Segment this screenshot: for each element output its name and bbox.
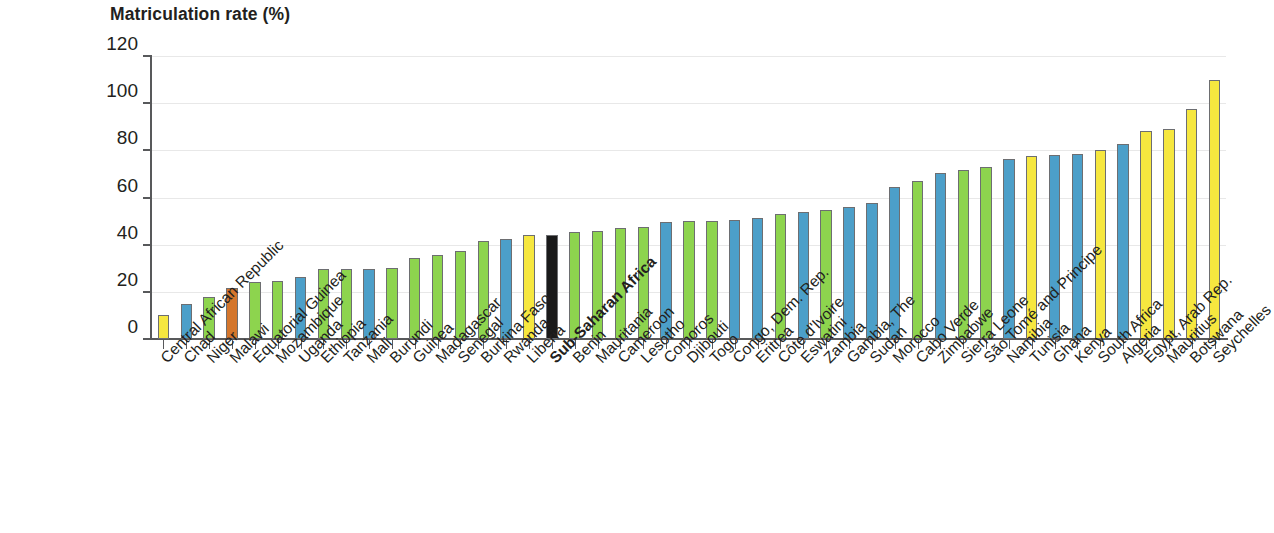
bar-slot[interactable] — [775, 56, 786, 339]
bar-slot[interactable] — [158, 56, 169, 339]
bar-slot[interactable] — [752, 56, 763, 339]
bar-slot[interactable] — [843, 56, 854, 339]
bar[interactable] — [866, 203, 877, 339]
bar-slot[interactable] — [478, 56, 489, 339]
bar-slot[interactable] — [386, 56, 397, 339]
bar-slot[interactable] — [409, 56, 420, 339]
y-tick-label: 0 — [72, 316, 138, 338]
y-tick-mark — [143, 338, 151, 340]
bar-slot[interactable] — [500, 56, 511, 339]
bar[interactable] — [1049, 155, 1060, 339]
bar-slot[interactable] — [706, 56, 717, 339]
y-tick-label: 60 — [72, 175, 138, 197]
bar-slot[interactable] — [1072, 56, 1083, 339]
bar[interactable] — [912, 181, 923, 339]
y-tick-mark — [143, 149, 151, 151]
bar-slot[interactable] — [638, 56, 649, 339]
bar-slot[interactable] — [958, 56, 969, 339]
bar-slot[interactable] — [683, 56, 694, 339]
bar-slot[interactable] — [569, 56, 580, 339]
bar-slot[interactable] — [1163, 56, 1174, 339]
bar-slot[interactable] — [660, 56, 671, 339]
bar-slot[interactable] — [980, 56, 991, 339]
bar-slot[interactable] — [935, 56, 946, 339]
y-axis-tick-labels: 020406080100120 — [72, 0, 138, 533]
y-tick-mark — [143, 102, 151, 104]
bar-slot[interactable] — [1117, 56, 1128, 339]
bar-slot[interactable] — [1095, 56, 1106, 339]
bar[interactable] — [729, 220, 740, 339]
bar-slot[interactable] — [729, 56, 740, 339]
bar-slot[interactable] — [249, 56, 260, 339]
y-tick-label: 100 — [72, 80, 138, 102]
y-tick-mark — [143, 244, 151, 246]
y-tick-label: 20 — [72, 269, 138, 291]
bar[interactable] — [935, 173, 946, 339]
y-tick-label: 80 — [72, 127, 138, 149]
y-tick-label: 40 — [72, 222, 138, 244]
bar-slot[interactable] — [455, 56, 466, 339]
bar[interactable] — [158, 315, 169, 339]
bar-slot[interactable] — [363, 56, 374, 339]
y-tick-mark — [143, 291, 151, 293]
y-tick-label: 120 — [72, 33, 138, 55]
bar-slot[interactable] — [272, 56, 283, 339]
bar-slot[interactable] — [432, 56, 443, 339]
y-tick-mark — [143, 55, 151, 57]
bar[interactable] — [1072, 154, 1083, 339]
bar[interactable] — [1117, 144, 1128, 339]
bar-slot[interactable] — [912, 56, 923, 339]
y-tick-mark — [143, 197, 151, 199]
bar-slot[interactable] — [866, 56, 877, 339]
bar-slot[interactable] — [181, 56, 192, 339]
bar-slot[interactable] — [341, 56, 352, 339]
